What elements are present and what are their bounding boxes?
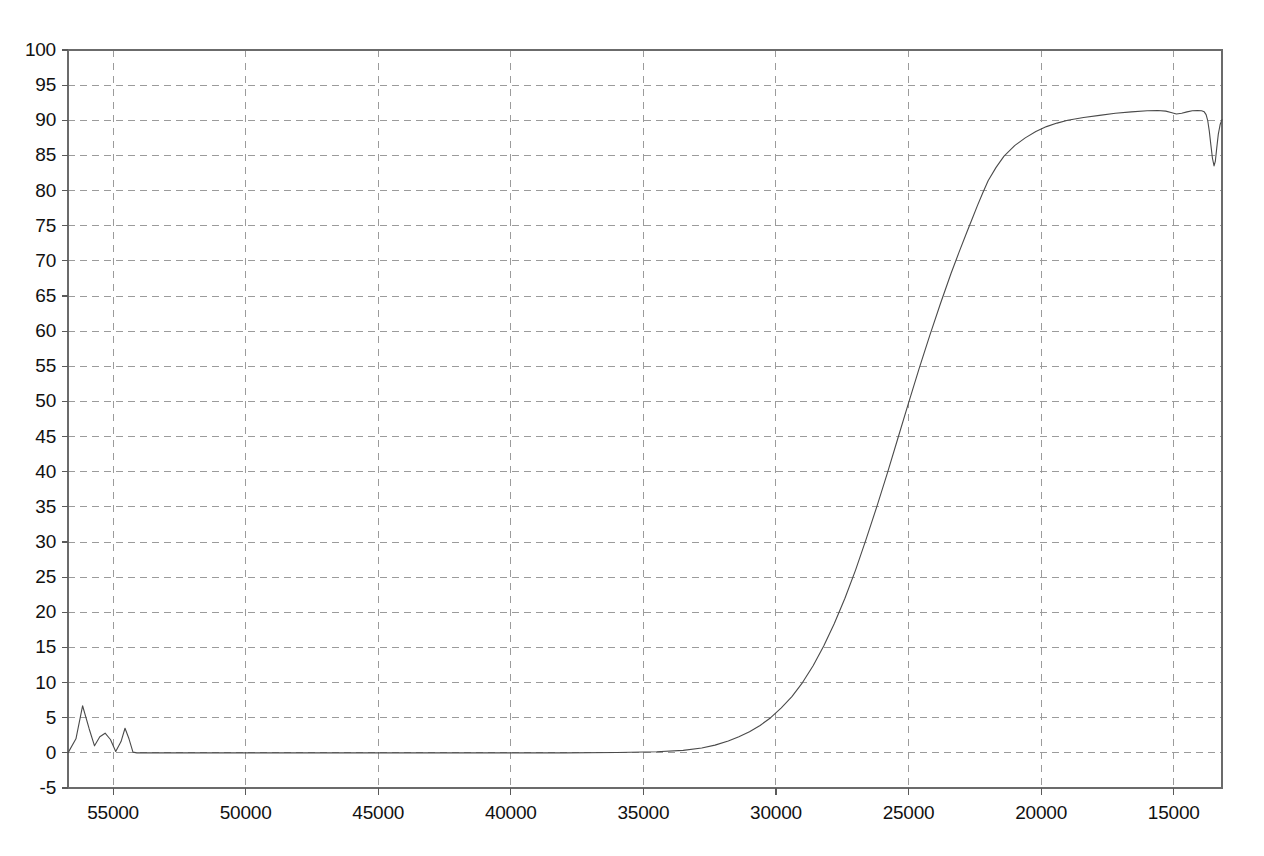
y-tick-label: 0 [0,742,56,764]
y-tick-label: 40 [0,461,56,483]
y-tick-label: 80 [0,180,56,202]
x-tick-label: 20000 [981,802,1101,824]
x-tick-label: 15000 [1114,802,1234,824]
y-tick-label: 30 [0,531,56,553]
y-tick-label: 75 [0,215,56,237]
x-tick-label: 45000 [318,802,438,824]
y-tick-label: 15 [0,636,56,658]
plot-background [0,0,1264,856]
chart-container: -505101520253035404550556065707580859095… [0,0,1264,856]
x-tick-label: 55000 [53,802,173,824]
spectrum-plot [0,0,1264,856]
x-tick-label: 35000 [583,802,703,824]
y-tick-label: 5 [0,707,56,729]
y-tick-label: -5 [0,777,56,799]
y-tick-label: 25 [0,566,56,588]
y-tick-label: 20 [0,601,56,623]
y-tick-label: 85 [0,144,56,166]
y-tick-label: 90 [0,109,56,131]
y-tick-label: 70 [0,250,56,272]
x-tick-label: 50000 [186,802,306,824]
y-tick-label: 55 [0,355,56,377]
y-tick-label: 95 [0,74,56,96]
y-tick-label: 45 [0,426,56,448]
y-tick-label: 50 [0,390,56,412]
x-tick-label: 30000 [716,802,836,824]
y-tick-label: 60 [0,320,56,342]
y-tick-label: 100 [0,39,56,61]
x-tick-label: 25000 [849,802,969,824]
y-tick-label: 65 [0,285,56,307]
x-tick-label: 40000 [451,802,571,824]
y-tick-label: 35 [0,496,56,518]
y-tick-label: 10 [0,672,56,694]
